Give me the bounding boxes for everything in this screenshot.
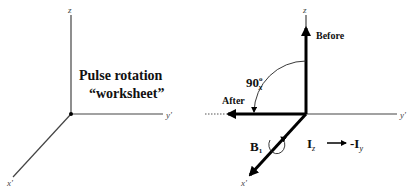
pulse-rotation-diagram: z y' x' Pulse rotation “worksheet” z y' … xyxy=(0,0,415,196)
right-axes-frame: z y' x' Before After 90ox B1 Iz -Iy xyxy=(205,5,407,188)
left-x-axis xyxy=(13,114,71,177)
left-origin-dot xyxy=(69,112,73,116)
right-y-label: y' xyxy=(399,110,407,120)
transition-from: Iz xyxy=(307,136,316,153)
left-z-label: z xyxy=(67,5,72,15)
before-label: Before xyxy=(316,30,345,41)
right-x-label: x' xyxy=(240,178,248,188)
b1-label: B1 xyxy=(250,139,263,155)
left-x-label: x' xyxy=(6,178,14,188)
right-z-label: z xyxy=(302,5,307,15)
left-y-label: y' xyxy=(165,110,173,120)
transition-to: -Iy xyxy=(350,136,363,153)
worksheet-title-line2: “worksheet” xyxy=(89,86,164,101)
worksheet-title-line1: Pulse rotation xyxy=(79,68,163,83)
left-axes-frame: z y' x' Pulse rotation “worksheet” xyxy=(6,5,173,188)
after-label: After xyxy=(222,95,245,106)
angle-label: 90ox xyxy=(246,75,263,92)
